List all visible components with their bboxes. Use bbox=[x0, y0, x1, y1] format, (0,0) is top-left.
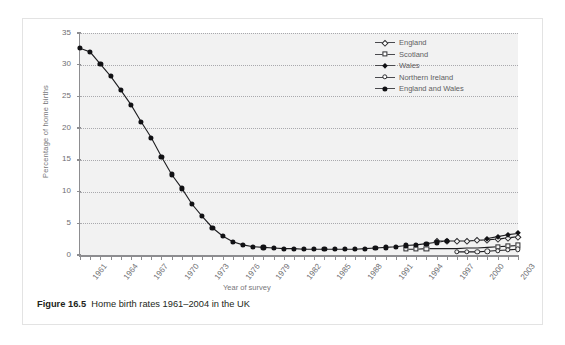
x-tick-mark bbox=[396, 256, 397, 260]
x-tick-mark bbox=[375, 256, 376, 260]
legend-item-england-and-wales: England and Wales bbox=[375, 83, 464, 95]
x-tick-mark bbox=[345, 256, 346, 260]
figure-card: Percentage of home births 05101520253035… bbox=[22, 18, 543, 325]
x-tick-mark bbox=[365, 256, 366, 260]
x-tick-label: 1994 bbox=[427, 262, 445, 282]
x-tick-label: 1973 bbox=[213, 262, 231, 282]
y-tick-label: 0 bbox=[45, 250, 71, 259]
x-tick-label: 1970 bbox=[183, 262, 201, 282]
chart-legend: EnglandScotlandWalesNorthern IrelandEngl… bbox=[375, 37, 464, 95]
legend-item-wales: Wales bbox=[375, 60, 464, 72]
x-tick-mark bbox=[437, 256, 438, 260]
x-tick-mark bbox=[284, 256, 285, 260]
x-tick-mark bbox=[416, 256, 417, 260]
x-tick-mark bbox=[131, 256, 132, 260]
x-tick-mark bbox=[161, 256, 162, 260]
x-tick-mark bbox=[406, 256, 407, 260]
x-tick-mark bbox=[447, 256, 448, 260]
data-point bbox=[424, 246, 429, 251]
legend-item-england: England bbox=[375, 37, 464, 49]
legend-item-northern-ireland: Northern Ireland bbox=[375, 72, 464, 84]
x-tick-mark bbox=[172, 256, 173, 260]
x-tick-mark bbox=[182, 256, 183, 260]
data-point bbox=[515, 247, 520, 252]
x-tick-mark bbox=[508, 256, 509, 260]
x-tick-mark bbox=[141, 256, 142, 260]
x-tick-mark bbox=[314, 256, 315, 260]
x-tick-mark bbox=[253, 256, 254, 260]
x-tick-mark bbox=[457, 256, 458, 260]
y-tick-label: 35 bbox=[45, 28, 71, 37]
x-tick-mark bbox=[487, 256, 488, 260]
x-tick-label: 1961 bbox=[91, 262, 109, 282]
x-tick-mark bbox=[426, 256, 427, 260]
x-tick-mark bbox=[263, 256, 264, 260]
y-tick-label: 15 bbox=[45, 154, 71, 163]
x-tick-mark bbox=[518, 256, 519, 260]
series-line-wales bbox=[487, 233, 518, 238]
x-tick-mark bbox=[498, 256, 499, 260]
x-tick-label: 1982 bbox=[305, 262, 323, 282]
x-tick-label: 1988 bbox=[366, 262, 384, 282]
x-tick-label: 1997 bbox=[458, 262, 476, 282]
x-tick-mark bbox=[274, 256, 275, 260]
y-tick-label: 5 bbox=[45, 218, 71, 227]
data-point bbox=[414, 247, 419, 252]
x-tick-mark bbox=[100, 256, 101, 260]
y-tick-label: 20 bbox=[45, 123, 71, 132]
x-tick-label: 1979 bbox=[274, 262, 292, 282]
y-tick-label: 30 bbox=[45, 59, 71, 68]
x-tick-mark bbox=[111, 256, 112, 260]
x-tick-mark bbox=[212, 256, 213, 260]
x-tick-label: 1964 bbox=[121, 262, 139, 282]
x-tick-mark bbox=[477, 256, 478, 260]
x-tick-label: 2003 bbox=[519, 262, 537, 282]
legend-label: Scotland bbox=[399, 50, 428, 59]
caption-title: Home birth rates 1961–2004 in the UK bbox=[91, 299, 250, 309]
x-tick-mark bbox=[304, 256, 305, 260]
legend-label: England bbox=[399, 38, 427, 47]
chart-region: Percentage of home births 05101520253035… bbox=[23, 19, 544, 289]
x-tick-label: 1967 bbox=[152, 262, 170, 282]
legend-marker-icon bbox=[375, 60, 395, 72]
x-axis-title: Year of survey bbox=[223, 283, 271, 292]
x-tick-mark bbox=[202, 256, 203, 260]
x-tick-label: 2000 bbox=[488, 262, 506, 282]
x-tick-mark bbox=[386, 256, 387, 260]
caption-figure-number: Figure 16.5 bbox=[37, 299, 86, 309]
y-tick-label: 25 bbox=[45, 91, 71, 100]
x-tick-mark bbox=[121, 256, 122, 260]
x-tick-mark bbox=[80, 256, 81, 260]
legend-label: England and Wales bbox=[399, 84, 464, 93]
x-tick-mark bbox=[151, 256, 152, 260]
x-tick-label: 1991 bbox=[396, 262, 414, 282]
x-tick-mark bbox=[294, 256, 295, 260]
legend-label: Northern Ireland bbox=[399, 73, 453, 82]
y-tick-label: 10 bbox=[45, 186, 71, 195]
legend-marker-icon bbox=[375, 72, 395, 84]
legend-marker-icon bbox=[375, 83, 395, 95]
x-tick-mark bbox=[355, 256, 356, 260]
x-tick-mark bbox=[90, 256, 91, 260]
x-tick-label: 1976 bbox=[244, 262, 262, 282]
legend-marker-icon bbox=[375, 37, 395, 49]
x-tick-mark bbox=[467, 256, 468, 260]
legend-marker-icon bbox=[375, 49, 395, 61]
x-tick-label: 1985 bbox=[335, 262, 353, 282]
x-tick-mark bbox=[243, 256, 244, 260]
legend-label: Wales bbox=[399, 61, 420, 70]
x-tick-mark bbox=[324, 256, 325, 260]
x-tick-mark bbox=[192, 256, 193, 260]
figure-caption: Figure 16.5 Home birth rates 1961–2004 i… bbox=[37, 299, 250, 309]
x-tick-mark bbox=[223, 256, 224, 260]
legend-item-scotland: Scotland bbox=[375, 49, 464, 61]
x-tick-mark bbox=[335, 256, 336, 260]
x-axis-line bbox=[79, 255, 519, 257]
x-tick-mark bbox=[233, 256, 234, 260]
